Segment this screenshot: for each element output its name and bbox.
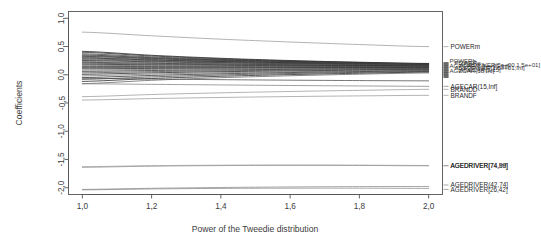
x-axis-title: Power of the Tweedie distribution <box>192 224 319 234</box>
dense-label: AGECAR(15,Inf] <box>450 67 495 74</box>
series-label-POWERm: POWERm <box>451 43 480 50</box>
x-tick-label: 1,4 <box>215 202 227 211</box>
series-label-AGEDRIVER_26_42: AGEDRIVER[26,42] <box>451 186 508 194</box>
y-tick-label: 0,5 <box>58 40 67 52</box>
y-tick-label: -0,5 <box>58 95 67 110</box>
chart-root: 1,00,50,0-0,5-1,0-1,5-2,0 1,01,21,41,61,… <box>0 0 541 246</box>
x-tick-label: 2,0 <box>423 202 435 211</box>
series-label-BRANDF: BRANDF <box>451 92 477 99</box>
y-tick-label: -2,0 <box>58 180 67 195</box>
y-tick-label: 0,0 <box>58 69 67 81</box>
y-tick-label: -1,5 <box>58 152 67 167</box>
y-axis-title: Coefficients <box>14 81 24 126</box>
x-tick-label: 1,6 <box>284 202 296 211</box>
x-tick-label: 1,2 <box>146 202 158 211</box>
y-tick-label: -1,0 <box>58 124 67 139</box>
tweedie-coefficients-plot: 1,00,50,0-0,5-1,0-1,5-2,0 1,01,21,41,61,… <box>0 0 541 246</box>
series-label-AGEDRIVER_74_Inf_b: AGEDRIVER(74,99] <box>451 162 509 170</box>
x-tick-label: 1,0 <box>77 202 89 211</box>
y-tick-label: 1,0 <box>58 12 67 24</box>
x-tick-label: 1,8 <box>354 202 366 211</box>
